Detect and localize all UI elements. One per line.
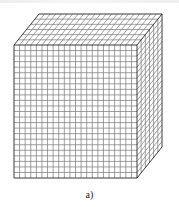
cube-front-face (14, 45, 137, 178)
cube-side-face (137, 19, 162, 173)
figure-caption: a) (0, 189, 179, 200)
cube-top-face (18, 14, 158, 45)
grid-cube-diagram (0, 0, 179, 207)
